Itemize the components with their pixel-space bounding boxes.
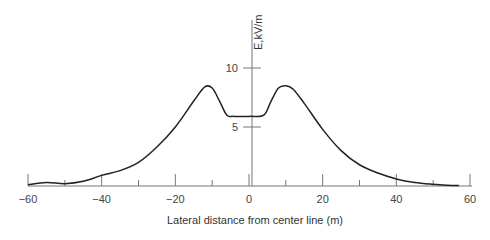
x-tick-label: −40 — [92, 193, 111, 205]
x-axis: −60−40−200204060 — [19, 174, 476, 205]
x-tick-label: 20 — [317, 193, 329, 205]
electric-field-chart: −60−40−200204060 510 E,kV/m Lateral dist… — [0, 0, 490, 240]
x-axis-title: Lateral distance from center line (m) — [167, 214, 343, 226]
y-tick-label: 5 — [232, 121, 238, 133]
y-tick-label: 10 — [226, 62, 238, 74]
x-tick-label: −20 — [166, 193, 185, 205]
x-tick-label: 60 — [464, 193, 476, 205]
field-curve — [28, 86, 459, 186]
x-tick-label: 40 — [390, 193, 402, 205]
y-axis-title: E,kV/m — [252, 15, 264, 50]
x-tick-label: 0 — [246, 193, 252, 205]
x-tick-label: −60 — [19, 193, 38, 205]
